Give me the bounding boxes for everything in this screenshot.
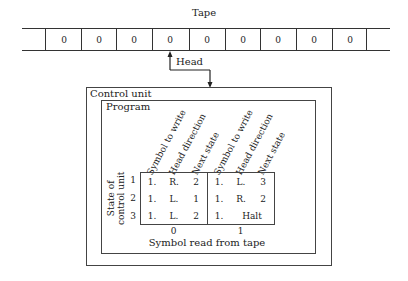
symbol-read-0: 0 — [140, 226, 207, 236]
table-cell: 1. — [208, 207, 231, 225]
program-table: 1. R. 2 1. L. 3 1. L. 1 1. R. 2 1. L. 2 … — [140, 172, 275, 225]
symbol-read-1: 1 — [207, 226, 274, 236]
table-cell: 2 — [185, 207, 208, 225]
table-cell: R. — [163, 173, 185, 191]
row-axis-label: State of control unit — [106, 172, 126, 225]
table-cell: 2 — [185, 173, 208, 191]
control-unit-label: Control unit — [90, 88, 151, 99]
table-cell: 1 — [185, 190, 208, 207]
table-row: 1. L. 1 1. R. 2 — [141, 190, 275, 207]
table-cell: L. — [163, 207, 185, 225]
table-cell: L. — [163, 190, 185, 207]
head-label: Head — [176, 56, 203, 67]
column-axis-label: Symbol read from tape — [140, 237, 274, 248]
state-number: 3 — [128, 211, 138, 221]
state-number: 1 — [128, 175, 138, 185]
table-row: 1. R. 2 1. L. 3 — [141, 173, 275, 191]
table-row: 1. L. 2 1. Halt — [141, 207, 275, 225]
table-cell: 3 — [252, 173, 275, 191]
table-cell-halt: Halt — [230, 207, 275, 225]
row-axis-label-line2: control unit — [116, 172, 126, 225]
table-cell: 1. — [141, 207, 164, 225]
state-number: 2 — [128, 193, 138, 203]
table-cell: 1. — [141, 190, 164, 207]
table-cell: R. — [230, 190, 252, 207]
table-cell: 1. — [208, 173, 231, 191]
program-label: Program — [106, 101, 150, 112]
table-cell: L. — [230, 173, 252, 191]
table-cell: 1. — [208, 190, 231, 207]
table-cell: 1. — [141, 173, 164, 191]
table-cell: 2 — [252, 190, 275, 207]
row-axis-label-line1: State of — [106, 172, 116, 225]
